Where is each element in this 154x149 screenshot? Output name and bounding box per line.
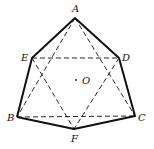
solid-edges	[17, 18, 135, 129]
label-E: E	[20, 52, 29, 63]
label-F: F	[70, 133, 79, 144]
polyhedron-figure: A E D B C F O	[0, 0, 154, 149]
label-B: B	[6, 112, 14, 123]
outline	[17, 18, 135, 129]
label-C: C	[138, 112, 146, 123]
diagram-canvas: A E D B C F O	[0, 0, 154, 149]
edge-DF	[74, 58, 119, 129]
label-O: O	[82, 75, 90, 86]
edge-BC	[17, 116, 135, 117]
edge-AC	[75, 18, 135, 116]
label-D: D	[121, 52, 130, 63]
edge-AB	[17, 18, 75, 117]
center-point-O	[75, 79, 77, 81]
label-A: A	[71, 3, 79, 14]
edge-EF	[32, 58, 74, 129]
dashed-edges	[17, 18, 135, 129]
